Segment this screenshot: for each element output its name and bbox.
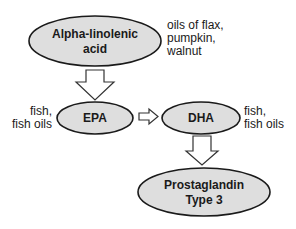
annotation-line: fish oils (12, 117, 52, 131)
omega3-pathway-diagram: Alpha-linolenic acid oils of flax, pumpk… (0, 0, 296, 229)
dha-sources-annotation: fish, fish oils (244, 104, 284, 131)
annotation-line: pumpkin, (167, 31, 216, 45)
node-ellipse (138, 168, 270, 216)
annotation-line: fish oils (244, 117, 284, 131)
arrow-down-icon (186, 136, 218, 165)
annotation-line: oils of flax, (167, 18, 224, 32)
node-alpha-linolenic-acid: Alpha-linolenic acid (29, 16, 161, 66)
node-label-line2: Type 3 (185, 193, 222, 207)
node-epa: EPA (57, 102, 133, 134)
node-ellipse (29, 16, 161, 66)
node-label: DHA (188, 111, 214, 125)
node-prostaglandin-type-3: Prostaglandin Type 3 (138, 168, 270, 216)
annotation-line: fish, (30, 104, 52, 118)
node-label: EPA (83, 111, 107, 125)
arrow-right-icon (139, 109, 158, 124)
node-dha: DHA (162, 102, 240, 134)
node-label-line1: Prostaglandin (164, 178, 244, 192)
node-label-line2: acid (83, 42, 107, 56)
epa-sources-annotation: fish, fish oils (12, 104, 52, 131)
arrow-down-icon (76, 70, 114, 100)
node-label-line1: Alpha-linolenic (52, 27, 138, 41)
annotation-line: walnut (166, 44, 202, 58)
annotation-line: fish, (244, 104, 266, 118)
ala-sources-annotation: oils of flax, pumpkin, walnut (166, 18, 224, 58)
